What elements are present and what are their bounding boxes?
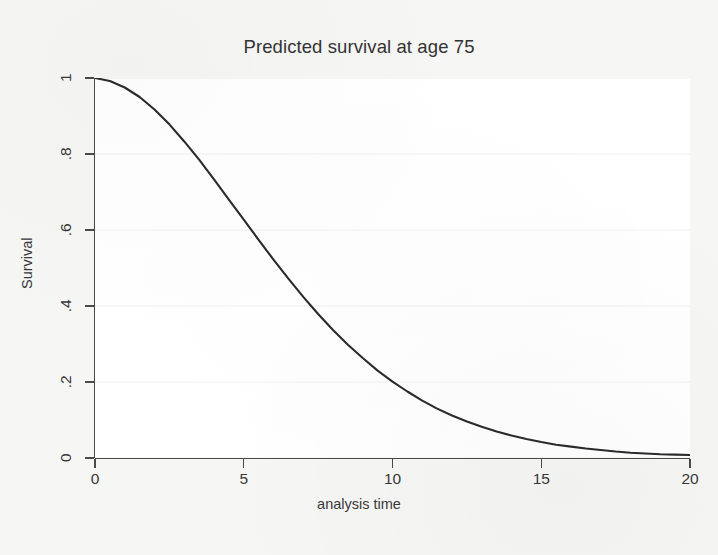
- y-tick-label-container: 0: [48, 450, 82, 466]
- y-tick-mark: [85, 305, 94, 306]
- x-tick-label: 5: [221, 470, 267, 488]
- y-tick-mark: [85, 457, 94, 458]
- y-axis-line: [94, 78, 95, 458]
- plot-canvas: [95, 78, 690, 458]
- y-axis-title: Survival: [20, 237, 35, 289]
- y-tick-label: 0: [57, 454, 73, 463]
- x-tick-label: 15: [518, 470, 564, 488]
- x-tick-label: 0: [72, 470, 118, 488]
- x-axis-title: analysis time: [0, 496, 718, 512]
- y-axis-title-container: Survival: [12, 198, 42, 328]
- x-tick-mark: [541, 459, 542, 468]
- chart-title: Predicted survival at age 75: [0, 36, 718, 58]
- y-tick-label: 1: [57, 74, 73, 83]
- y-tick-label: .8: [57, 148, 73, 161]
- y-tick-label-container: .2: [48, 374, 82, 390]
- x-tick-mark: [94, 459, 95, 468]
- y-tick-label: .4: [57, 300, 73, 313]
- gridlines-group: [95, 78, 690, 458]
- y-tick-label: .6: [57, 224, 73, 237]
- x-tick-mark: [689, 459, 690, 468]
- y-tick-mark: [85, 381, 94, 382]
- y-tick-label-container: .8: [48, 146, 82, 162]
- plot-area: [95, 78, 690, 458]
- y-tick-label: .2: [57, 376, 73, 389]
- survival-chart-figure: Predicted survival at age 75 0.2.4.6.81 …: [0, 0, 718, 555]
- y-tick-label-container: .4: [48, 298, 82, 314]
- y-tick-mark: [85, 77, 94, 78]
- survival-curve-line: [95, 78, 690, 455]
- y-tick-mark: [85, 229, 94, 230]
- y-tick-label-container: 1: [48, 70, 82, 86]
- y-tick-label-container: .6: [48, 222, 82, 238]
- x-tick-mark: [392, 459, 393, 468]
- y-tick-mark: [85, 153, 94, 154]
- x-tick-label: 10: [370, 470, 416, 488]
- x-tick-mark: [243, 459, 244, 468]
- x-tick-label: 20: [667, 470, 713, 488]
